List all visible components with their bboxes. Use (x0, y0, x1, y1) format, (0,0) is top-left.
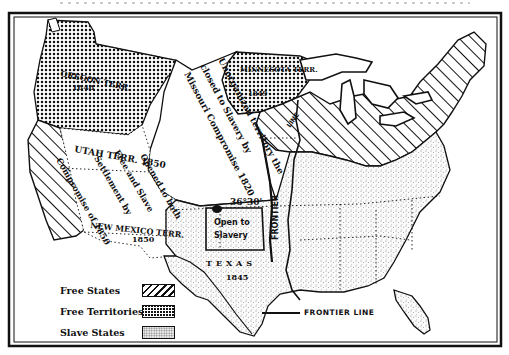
missouri-marker (212, 205, 222, 213)
label-minnesota-year: 1849 (248, 89, 268, 98)
legend-item-free-territories: Free Territories (60, 301, 180, 322)
slave-states-swatch-icon (142, 326, 175, 339)
label-latitude: 36°30' (230, 197, 262, 207)
region-florida (394, 290, 430, 334)
label-frontier-vertical: FRONTIER (271, 195, 280, 240)
label-texas-year: 1845 (226, 272, 248, 282)
frontier-line-label: FRONTIER LINE (304, 308, 374, 317)
frontier-line-key: FRONTIER LINE (262, 308, 374, 317)
label-new-mexico-year: 1850 (132, 234, 155, 244)
legend-label: Slave States (60, 327, 142, 338)
label-minnesota: MINNESOTA TERR. (240, 65, 318, 74)
free-territories-swatch-icon (142, 305, 175, 318)
label-oregon-year: 1848 (72, 82, 95, 92)
label-open-slavery-2: Slavery (214, 231, 248, 240)
label-texas: TEXAS (206, 258, 256, 268)
legend-item-slave-states: Slave States (60, 322, 180, 343)
frontier-line-icon (262, 312, 300, 314)
legend-label: Free Territories (60, 306, 142, 317)
label-open-slavery-1: Open to (214, 218, 250, 227)
map-legend: Free States Free Territories Slave State… (60, 280, 180, 343)
legend-item-free-states: Free States (60, 280, 180, 301)
free-states-swatch-icon (142, 284, 175, 297)
legend-label: Free States (60, 285, 142, 296)
